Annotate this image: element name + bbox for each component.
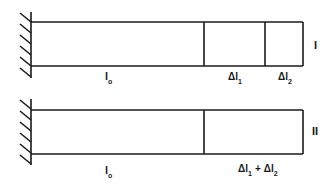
label-l0-I: lo [105,70,112,85]
roman-label-I: I [314,39,317,51]
fixed-wall-bottom [20,99,31,165]
label-l0-II: lo [105,164,112,179]
label-delta-l2: Δl2 [278,71,292,85]
label-combined-extension: Δl1+Δl2 [238,163,278,177]
bar-I [31,22,303,66]
roman-label-II: II [312,125,318,137]
config-II: lo Δl1+Δl2 II [20,99,318,179]
bar-II [31,110,303,154]
elongation-diagram: lo Δl1 Δl2 I lo Δl1+Δl2 [0,0,332,189]
label-delta-l1: Δl1 [228,71,242,85]
fixed-wall-top [20,12,31,78]
config-I: lo Δl1 Δl2 I [20,12,317,85]
